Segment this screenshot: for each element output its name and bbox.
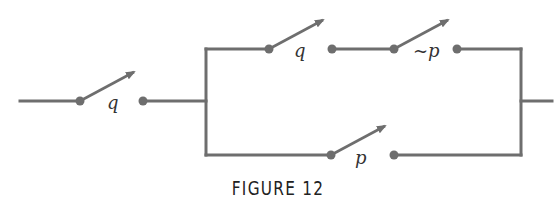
switch-not-p-upper: ~p bbox=[390, 20, 462, 61]
switch-label: q bbox=[294, 40, 306, 61]
switch-label: q bbox=[107, 92, 119, 113]
circuit-diagram: q q ~p p bbox=[0, 0, 556, 205]
switch-label: p bbox=[355, 147, 367, 168]
switch-label: ~p bbox=[413, 40, 440, 61]
switch-q-upper: q bbox=[265, 20, 337, 61]
switch-q-main: q bbox=[76, 72, 148, 113]
switch-p-lower: p bbox=[327, 126, 399, 168]
figure-caption: FIGURE 12 bbox=[42, 176, 515, 200]
